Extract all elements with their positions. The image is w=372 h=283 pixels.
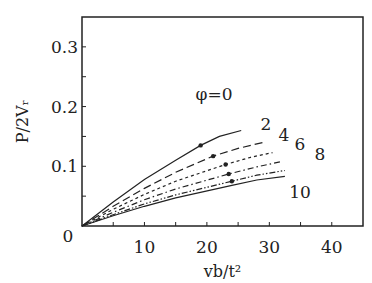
curve-marker <box>223 162 227 166</box>
y-tick-label: 0.3 <box>51 37 78 57</box>
curve-label: 6 <box>295 134 306 154</box>
y-axis-label: P/2Vᵣ <box>13 100 32 143</box>
curve-φ=10 <box>82 176 285 226</box>
curve-φ=4 <box>82 153 273 226</box>
x-axis-label: vb/t² <box>203 262 242 281</box>
y-tick-label: 0.2 <box>51 97 78 117</box>
curve-φ=0 <box>82 131 241 227</box>
y-tick-label: 0.1 <box>51 156 78 176</box>
curve-label: 4 <box>279 125 290 145</box>
curve-φ=8 <box>82 171 285 227</box>
curve-label: 10 <box>289 182 311 202</box>
curve-label: 8 <box>315 144 326 164</box>
x-tick-label: 20 <box>196 237 218 257</box>
curve-marker <box>230 179 234 183</box>
chart: 102030400.10.20.30vb/t²P/2Vᵣφ=0246810 <box>0 0 372 283</box>
curve-marker <box>198 143 202 147</box>
curve-marker <box>211 154 215 158</box>
curve-label: φ=0 <box>196 84 233 104</box>
curve-marker <box>227 172 231 176</box>
origin-label: 0 <box>63 226 74 246</box>
x-tick-label: 30 <box>259 237 281 257</box>
x-tick-label: 10 <box>134 237 156 257</box>
x-tick-label: 40 <box>321 237 343 257</box>
curve-label: 2 <box>261 114 272 134</box>
